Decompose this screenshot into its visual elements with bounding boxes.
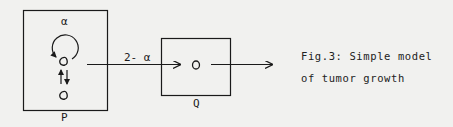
caption-line-1: Fig.3: Simple model [301, 45, 433, 67]
transfer-rate-label: 2- α [124, 52, 151, 64]
cell-icon-upper [60, 57, 68, 65]
compartment-p-label: P [61, 112, 68, 124]
self-renewal-label: α [61, 16, 68, 28]
cell-icon-lower [60, 91, 68, 99]
figure-caption: Fig.3: Simple model of tumor growth [301, 45, 433, 89]
self-renewal-loop-icon [52, 35, 78, 59]
compartment-q-label: Q [193, 98, 200, 110]
cell-icon-q [193, 61, 200, 69]
exchange-arrows-icon [61, 70, 67, 84]
caption-line-2: of tumor growth [301, 67, 433, 89]
compartment-q-box [162, 39, 231, 96]
